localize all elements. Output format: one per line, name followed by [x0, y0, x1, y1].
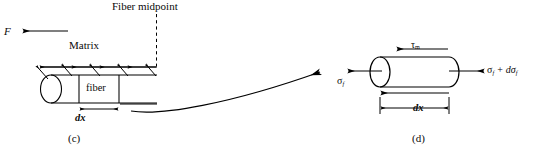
- shear-arrow-3: [90, 65, 100, 77]
- force-label: F: [4, 26, 11, 37]
- connector-curve: [131, 72, 320, 112]
- dsigma-symbol: dσ: [506, 64, 516, 75]
- panel-d-caption: (d): [412, 133, 425, 144]
- tau-m-label: τm: [411, 40, 420, 51]
- dx-label-panel-c: dx: [75, 113, 86, 124]
- tau-subscript: m: [415, 43, 420, 50]
- shear-arrow-2: [62, 65, 72, 77]
- element-left-cap: [370, 57, 390, 87]
- fiber-end-cap: [41, 75, 62, 103]
- sigma-f-label: σf: [337, 76, 344, 87]
- figure-root: F Matrix Fiber midpoint fiber dx (c) τm …: [0, 0, 533, 160]
- panel-c-caption: (c): [68, 133, 80, 144]
- shear-arrow-5: [146, 65, 156, 77]
- sigma-f-plus-dsigma-f-label: σf+dσf: [487, 65, 517, 76]
- shear-arrow-4: [118, 65, 128, 77]
- element-right-cap: [449, 57, 459, 87]
- panel-c-group: [23, 14, 157, 109]
- dsigma-subscript: f: [516, 69, 518, 76]
- fiber-label: fiber: [86, 83, 106, 94]
- matrix-label: Matrix: [69, 40, 99, 51]
- plus-sign: +: [494, 64, 506, 75]
- dx-label-panel-d: dx: [413, 103, 424, 114]
- sigma-subscript: f: [342, 80, 344, 87]
- fiber-midpoint-label: Fiber midpoint: [112, 1, 178, 12]
